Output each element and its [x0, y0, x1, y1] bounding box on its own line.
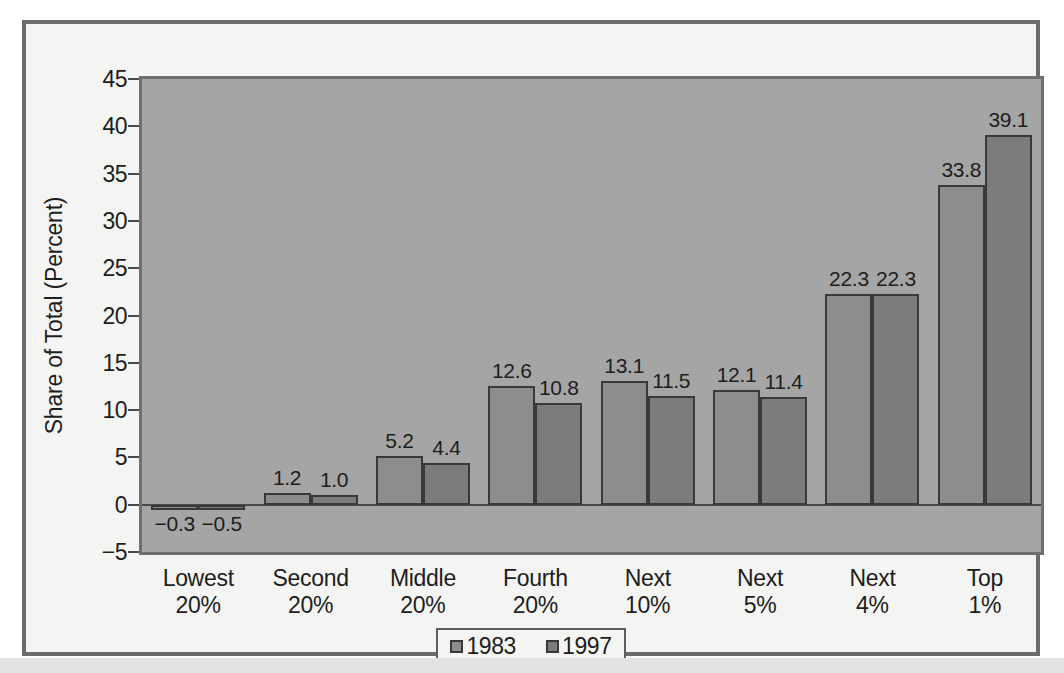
x-axis-tick-line1: Next — [625, 565, 671, 591]
bar-value-label: 11.4 — [753, 370, 814, 394]
x-axis-tick-label: Lowest20% — [142, 565, 254, 619]
bar-value-label: −0.5 — [191, 512, 252, 536]
bar-1983-0 — [151, 505, 198, 510]
x-axis-tick-line2: 5% — [704, 592, 816, 619]
y-axis-tick-label: 10 — [81, 397, 127, 424]
y-axis-tick-label: 5 — [81, 444, 127, 471]
bar-1997-0 — [198, 505, 245, 510]
bar-1983-7 — [938, 185, 985, 505]
x-axis-tick-label: Second20% — [254, 565, 366, 619]
scanned-page: Share of Total (Percent) −50510152025303… — [0, 0, 1064, 673]
legend-item-1983: 1983 — [450, 633, 516, 660]
x-axis-tick-line1: Fourth — [503, 565, 568, 591]
legend-item-label: 1997 — [562, 633, 612, 660]
x-axis-tick-line1: Top — [967, 565, 1003, 591]
bar-1983-3 — [488, 386, 535, 505]
bar-1983-4 — [601, 381, 648, 505]
bar-1983-2 — [376, 456, 423, 505]
bar-1983-1 — [264, 493, 311, 504]
x-axis-tick-line2: 20% — [254, 592, 366, 619]
x-axis-tick-line2: 20% — [479, 592, 591, 619]
bar-value-label: 39.1 — [978, 108, 1039, 132]
plot-inner: −0.3−0.51.21.05.24.412.610.813.111.512.1… — [142, 79, 1041, 552]
x-axis-tick-line2: 1% — [929, 592, 1041, 619]
x-axis-tick-line1: Middle — [390, 565, 456, 591]
bar-1997-5 — [760, 397, 807, 505]
x-axis-tick-line2: 20% — [142, 592, 254, 619]
y-axis-tick-label: 40 — [81, 113, 127, 140]
bar-value-label: 11.5 — [641, 369, 702, 393]
legend-item-1997: 1997 — [546, 633, 612, 660]
y-axis-tick-label: 30 — [81, 207, 127, 234]
y-axis-tick-label: 35 — [81, 160, 127, 187]
y-axis-tick-label: 45 — [81, 66, 127, 93]
plot-area: −0.3−0.51.21.05.24.412.610.813.111.512.1… — [139, 76, 1044, 555]
x-axis-tick-line2: 10% — [592, 592, 704, 619]
x-axis-tick-label: Top1% — [929, 565, 1041, 619]
figure-frame: Share of Total (Percent) −50510152025303… — [22, 20, 1040, 656]
bar-1997-4 — [648, 396, 695, 505]
x-axis-tick-label: Middle20% — [367, 565, 479, 619]
y-axis-tick-label: 0 — [81, 491, 127, 518]
y-axis-tick-label: 20 — [81, 302, 127, 329]
legend-swatch-icon — [450, 640, 463, 653]
legend-item-label: 1983 — [466, 633, 516, 660]
bar-1983-6 — [825, 294, 872, 505]
bar-1997-1 — [311, 495, 358, 504]
bar-1997-7 — [985, 135, 1032, 505]
x-axis-tick-line1: Lowest — [163, 565, 234, 591]
bar-value-label: 4.4 — [416, 436, 477, 460]
x-axis-tick-line1: Second — [272, 565, 348, 591]
y-axis-tick-label: 25 — [81, 255, 127, 282]
bar-value-label: 1.0 — [304, 468, 365, 492]
x-axis-tick-line2: 4% — [816, 592, 928, 619]
bar-value-label: 22.3 — [865, 267, 926, 291]
y-axis-tick-label: 15 — [81, 349, 127, 376]
x-axis-tick-line1: Next — [737, 565, 783, 591]
legend-swatch-icon — [546, 640, 559, 653]
bar-value-label: 33.8 — [931, 158, 992, 182]
bar-1997-6 — [872, 294, 919, 505]
x-axis-tick-line1: Next — [849, 565, 895, 591]
bar-1997-3 — [535, 403, 582, 505]
page-bottom-strip — [0, 658, 1064, 673]
y-axis-title-label: Share of Total (Percent) — [42, 197, 69, 435]
x-axis-tick-line2: 20% — [367, 592, 479, 619]
bar-value-label: 10.8 — [528, 376, 589, 400]
bar-1983-5 — [713, 390, 760, 504]
y-axis-title: Share of Total (Percent) — [40, 76, 70, 555]
x-axis-tick-label: Next4% — [816, 565, 928, 619]
x-axis-tick-label: Next10% — [592, 565, 704, 619]
bar-1997-2 — [423, 463, 470, 505]
x-axis-tick-label: Next5% — [704, 565, 816, 619]
x-axis-tick-label: Fourth20% — [479, 565, 591, 619]
y-axis-tick-label: −5 — [81, 539, 127, 566]
